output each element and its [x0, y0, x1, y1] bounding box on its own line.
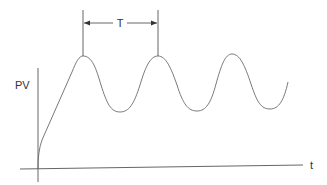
pv-oscillation-diagram: T PV t: [0, 0, 327, 185]
x-axis: [20, 165, 303, 169]
pv-curve: [38, 54, 288, 168]
arrowhead-right-icon: [151, 21, 157, 26]
y-axis-label: PV: [15, 79, 30, 91]
x-axis-label: t: [310, 159, 313, 171]
period-label: T: [117, 17, 124, 29]
arrowhead-left-icon: [84, 21, 90, 26]
